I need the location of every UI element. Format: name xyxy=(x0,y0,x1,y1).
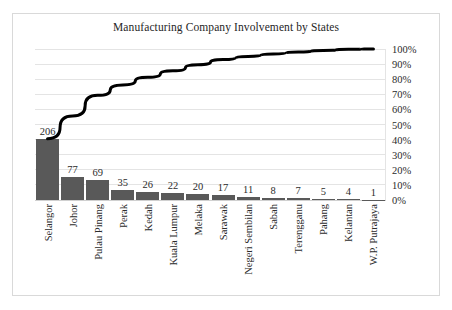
category-label: Terengganu xyxy=(293,204,304,253)
y-axis-tick-label: 50% xyxy=(392,119,411,130)
category-label-slot: Terengganu xyxy=(286,202,311,297)
category-label: Kelantan xyxy=(343,204,354,242)
category-axis-labels: SelangorJohorPulau PinangPerakKedahKuala… xyxy=(35,202,386,297)
y-axis-tick-label: 90% xyxy=(392,59,411,70)
category-label-slot: Negeri Sembilan xyxy=(236,202,261,297)
category-label: Kuala Lumpur xyxy=(167,204,178,266)
category-label: Selangor xyxy=(42,204,53,241)
category-label: Kedah xyxy=(142,204,153,231)
category-label-slot: Melaka xyxy=(185,202,210,297)
category-label-slot: W.P. Putrajaya xyxy=(361,202,386,297)
category-label-slot: Pahang xyxy=(311,202,336,297)
y-axis-tick-label: 30% xyxy=(392,149,411,160)
category-label: Perak xyxy=(117,204,128,228)
category-label-slot: Kelantan xyxy=(336,202,361,297)
y-axis-tick-label: 10% xyxy=(392,179,411,190)
y-axis-tick-label: 60% xyxy=(392,104,411,115)
cumulative-line-layer xyxy=(35,49,386,200)
category-label-slot: Selangor xyxy=(35,202,60,297)
cumulative-line xyxy=(48,49,374,139)
y-axis-tick-label: 70% xyxy=(392,89,411,100)
category-label: Negeri Sembilan xyxy=(243,204,254,275)
y-axis-tick-label: 80% xyxy=(392,74,411,85)
category-label-slot: Kuala Lumpur xyxy=(160,202,185,297)
category-label: Johor xyxy=(67,204,78,227)
category-label: W.P. Putrajaya xyxy=(368,204,379,265)
plot-area: 206776935262220171187541 xyxy=(35,49,386,200)
category-label: Pahang xyxy=(318,204,329,235)
chart-title: Manufacturing Company Involvement by Sta… xyxy=(13,21,439,33)
category-label-slot: Perak xyxy=(110,202,135,297)
y-axis-tick-label: 0% xyxy=(392,195,406,206)
chart-container: Manufacturing Company Involvement by Sta… xyxy=(12,13,440,296)
category-label: Sabah xyxy=(268,204,279,230)
category-label-slot: Pulau Pinang xyxy=(85,202,110,297)
y-axis-tick-label: 40% xyxy=(392,134,411,145)
category-label-slot: Kedah xyxy=(135,202,160,297)
category-label-slot: Johor xyxy=(60,202,85,297)
category-label: Melaka xyxy=(192,204,203,236)
secondary-y-axis: 0%10%20%30%40%50%60%70%80%90%100% xyxy=(392,49,442,200)
category-label: Sarawak xyxy=(218,204,229,240)
y-axis-tick-label: 100% xyxy=(392,44,417,55)
y-axis-tick-label: 20% xyxy=(392,164,411,175)
category-label-slot: Sarawak xyxy=(211,202,236,297)
category-label: Pulau Pinang xyxy=(92,204,103,260)
category-label-slot: Sabah xyxy=(261,202,286,297)
